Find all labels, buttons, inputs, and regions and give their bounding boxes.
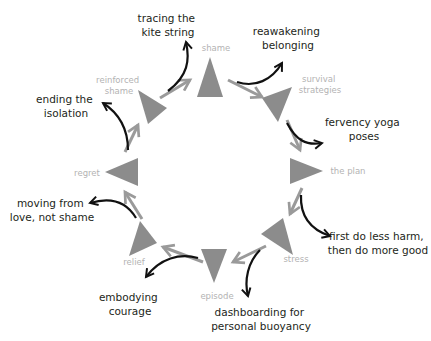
node-label-stress: stress [283,254,309,264]
triangle-shame [197,57,223,97]
intervention-arrow-embodying-courage [146,256,198,277]
intervention-arrow-reawakening-belonging [237,63,282,84]
node-label-survival-strategies: survival strategies [299,74,342,95]
intervention-label-embodying-courage: embodying courage [99,291,161,317]
triangle-episode [201,249,227,283]
shame-cycle-diagram: shame survival strategies the plan stres… [0,0,431,341]
intervention-label-tracing-kite-string: tracing the kite string [138,12,199,38]
intervention-label-fervency-yoga: fervency yoga poses [325,116,403,142]
node-label-relief: relief [123,257,145,267]
node-triangles [105,57,323,283]
intervention-arrow-moving-from-love [90,200,136,218]
intervention-arrow-first-do-less-harm [301,195,330,236]
node-label-regret: regret [74,168,100,178]
intervention-arrow-dashboarding [247,250,261,296]
intervention-arrow-ending-isolation [103,103,128,150]
intervention-label-reawakening-belonging: reawakening belonging [253,25,323,51]
node-label-reinforced-shame: reinforced shame [96,75,142,96]
triangle-stress [261,218,293,255]
triangle-survival-strategies [262,87,292,122]
intervention-label-first-do-less-harm: first do less harm, then do more good [328,230,428,256]
node-label-episode: episode [200,291,233,301]
node-label-the-plan: the plan [330,166,365,176]
triangle-the-plan [290,158,323,184]
triangle-relief [129,221,157,256]
intervention-label-ending-isolation: ending the isolation [36,93,96,119]
node-label-shame: shame [202,43,231,53]
cycle-arrow-reinforced-to-shame [160,80,190,98]
cycle-arrow-stress-to-episode [233,246,266,262]
triangle-regret [105,158,138,186]
intervention-label-moving-from-love: moving from love, not shame [10,197,94,223]
intervention-label-dashboarding: dashboarding for personal buoyancy [211,306,311,332]
